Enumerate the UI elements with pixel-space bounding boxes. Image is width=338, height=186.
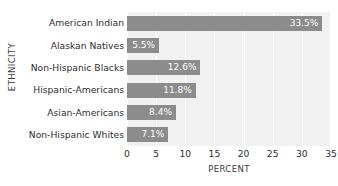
x-tick-label: 10 <box>179 148 191 159</box>
bar-value-label: 7.1% <box>127 127 164 142</box>
gridline <box>273 12 274 146</box>
x-tick-label: 0 <box>124 148 130 159</box>
gridline <box>244 12 245 146</box>
x-tick-label: 15 <box>209 148 221 159</box>
bar-value-label: 5.5% <box>127 38 155 53</box>
category-label: Non-Hispanic Whites <box>18 130 124 140</box>
x-tick-label: 20 <box>238 148 250 159</box>
plot-area: 33.5%5.5%12.6%11.8%8.4%7.1% <box>127 12 331 146</box>
bar-value-label: 33.5% <box>127 16 318 31</box>
x-tick-label: 30 <box>296 148 308 159</box>
x-axis-title: PERCENT <box>127 164 331 174</box>
category-label: Asian-Americans <box>18 108 124 118</box>
bar-value-label: 11.8% <box>127 83 192 98</box>
gridline <box>330 12 331 146</box>
bar-value-label: 8.4% <box>127 105 172 120</box>
category-label: American Indian <box>18 18 124 28</box>
gridline <box>302 12 303 146</box>
gridline <box>185 12 186 146</box>
y-axis-title: ETHNICITY <box>7 19 17 115</box>
category-label-list: American IndianAlaskan NativesNon-Hispan… <box>18 12 124 146</box>
category-label: Non-Hispanic Blacks <box>18 63 124 73</box>
x-axis-tick-labels: 05101520253035 <box>127 148 331 162</box>
x-tick-label: 35 <box>325 148 337 159</box>
gridline <box>156 12 157 146</box>
x-tick-label: 5 <box>153 148 159 159</box>
x-tick-label: 25 <box>267 148 279 159</box>
bar-chart: ETHNICITY American IndianAlaskan Natives… <box>0 0 338 186</box>
category-label: Alaskan Natives <box>18 41 124 51</box>
gridline <box>127 12 128 146</box>
category-label: Hispanic-Americans <box>18 85 124 95</box>
bar-value-label: 12.6% <box>127 60 196 75</box>
gridline <box>214 12 215 146</box>
